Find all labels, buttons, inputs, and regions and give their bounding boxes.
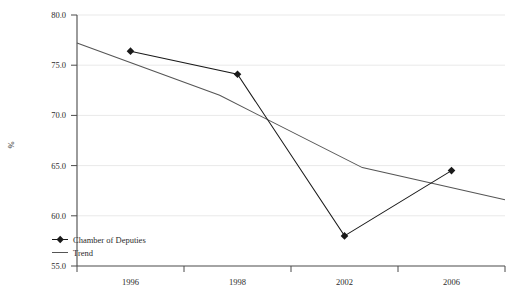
plot-background [77,15,505,266]
y-axis-ticks [71,15,77,266]
chart-svg: 80.0 75.0 70.0 65.0 60.0 55.0 % 1996 199… [0,0,521,295]
y-tick-label-55: 55.0 [51,261,66,271]
x-tick-label-2006: 2006 [443,277,460,287]
figure-caption-strip [0,289,521,295]
x-tick-label-1998: 1998 [229,277,246,287]
x-axis-ticks [77,266,505,272]
y-tick-label-70: 70.0 [51,110,66,120]
y-tick-label-65: 65.0 [51,161,66,171]
legend-label-chamber-of-deputies: Chamber of Deputies [73,235,146,245]
y-tick-label-75: 75.0 [51,60,66,70]
y-axis-title: % [6,141,16,148]
legend-label-trend: Trend [73,248,94,258]
y-tick-label-60: 60.0 [51,211,66,221]
y-tick-label-80: 80.0 [51,10,66,20]
x-tick-label-1996: 1996 [122,277,139,287]
line-chart: 80.0 75.0 70.0 65.0 60.0 55.0 % 1996 199… [0,0,521,295]
x-tick-label-2002: 2002 [336,277,353,287]
legend-diamond-icon [57,236,64,243]
